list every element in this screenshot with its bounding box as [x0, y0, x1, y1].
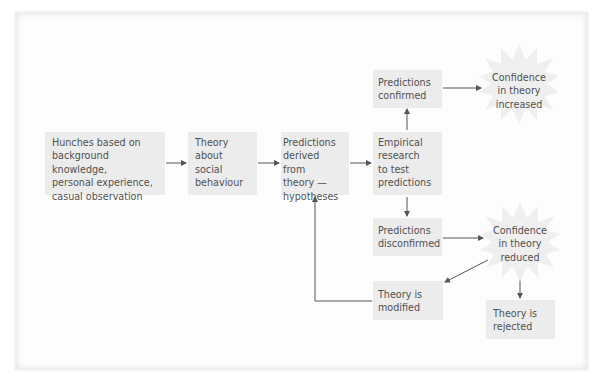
figure-caption-cropped: [10, 380, 470, 387]
box-theory-rejected: Theory is rejected: [486, 300, 555, 339]
burst-confidence-reduced: Confidence in theory reduced: [478, 200, 562, 284]
box-predictions-confirmed: Predictions confirmed: [373, 70, 442, 108]
burst-confidence-increased: Confidence in theory increased: [477, 42, 561, 126]
arrow-modified-predictions: [315, 197, 372, 301]
box-theory: Theory about social behaviour: [188, 132, 257, 195]
box-hunches: Hunches based on background knowledge, p…: [45, 132, 165, 195]
box-predictions-disconfirmed: Predictions disconfirmed: [373, 218, 442, 256]
box-empirical-research: Empirical research to test predictions: [373, 132, 442, 195]
box-predictions-derived: Predictions derived from theory — hypoth…: [281, 132, 349, 195]
box-theory-modified: Theory is modified: [373, 281, 443, 320]
